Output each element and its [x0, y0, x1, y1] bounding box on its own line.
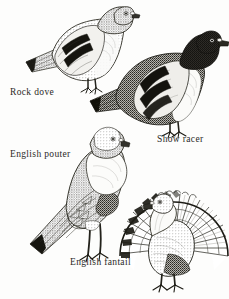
caption-english-fantail: English fantail: [70, 258, 131, 268]
caption-show-racer: Show racer: [157, 135, 204, 145]
pigeon-breeds-plate: Rock dove Show racer English pouter Engl…: [0, 0, 229, 299]
pigeon-english-fantail-icon: [112, 182, 229, 299]
caption-rock-dove: Rock dove: [10, 88, 54, 98]
caption-english-pouter: English pouter: [10, 150, 71, 160]
